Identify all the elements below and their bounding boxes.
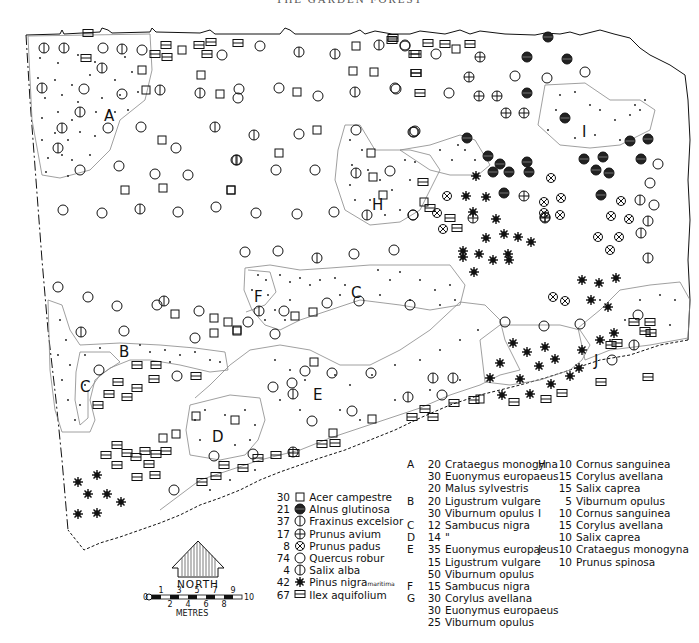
zone-label-b: B — [119, 343, 129, 361]
scale-tick-5: 5 — [194, 586, 199, 595]
zone-species: Corylus avellana — [576, 519, 663, 531]
zone-species: Viburnum opulus — [445, 616, 534, 628]
legend-row: 37 Fraxinus excelsior — [268, 515, 403, 527]
zone-count: 50 — [421, 568, 441, 580]
species-count: 30 — [268, 491, 290, 503]
zone-species: Crataegus monogyna — [576, 543, 689, 555]
zone-letter: H — [538, 458, 552, 470]
legend-row: 20Malus sylvestris — [407, 482, 559, 494]
legend-row: F15Sambucus nigra — [407, 580, 559, 592]
legend-row: 50Viburnum opulus — [407, 568, 559, 580]
legend-row: 10Prunus spinosa — [538, 556, 689, 568]
scale-tick-6: 6 — [203, 600, 208, 609]
legend-row: 30Euonymus europaeus — [407, 604, 559, 616]
zone-species: Euonymus europaeus — [445, 604, 559, 616]
zone-label-e: E — [313, 386, 322, 404]
zone-a-outline — [28, 34, 152, 178]
legend-row: 30Euonymus europaeus — [407, 470, 559, 482]
scale-tick-7: 7 — [212, 586, 217, 595]
zone-species: Ligustrum vulgare — [445, 495, 541, 507]
species-count: 17 — [268, 528, 290, 540]
scale-tick-2: 2 — [167, 600, 172, 609]
legend-row: 30Viburnum opulus — [407, 507, 559, 519]
zone-i-outline — [538, 83, 655, 148]
legend-row: 10Salix caprea — [538, 531, 689, 543]
zone-count: 15 — [552, 470, 572, 482]
legend-row: 15Ligustrum vulgare — [407, 556, 559, 568]
zone-species: Cornus sanguinea — [576, 458, 670, 470]
zone-legend-1: A20Crataegus monogyna 30Euonymus europae… — [407, 458, 559, 629]
legend-row: E35Euonymus europaeus — [407, 543, 559, 555]
zone-count: 14 — [421, 531, 441, 543]
zone-species: Sambucus nigra — [445, 519, 530, 531]
zone-species: Malus sylvestris — [445, 482, 528, 494]
legend-row: B20Ligustrum vulgare — [407, 495, 559, 507]
zone-species: Salix caprea — [576, 531, 640, 543]
scale-tick-9: 9 — [230, 586, 235, 595]
species-count: 21 — [268, 503, 290, 515]
species-name: Prunus padus — [309, 540, 380, 552]
zone-letter: G — [407, 592, 421, 604]
zone-letter: B — [407, 495, 421, 507]
zone-label-d: D — [212, 428, 224, 446]
species-count: 67 — [268, 589, 290, 601]
scale-tick-4: 4 — [185, 600, 190, 609]
zone-count: 15 — [421, 556, 441, 568]
zone-label-j: J — [593, 352, 598, 370]
zone-species: Cornus sanguinea — [576, 507, 670, 519]
species-suffix: maritima — [367, 580, 394, 587]
zone-count: 35 — [421, 543, 441, 555]
legend-row: H10Cornus sanguinea — [538, 458, 689, 470]
species-name: Alnus glutinosa — [309, 503, 389, 515]
scale-unit-label: METRES — [176, 609, 209, 618]
zone-letter: A — [407, 458, 421, 470]
legend-row: I10Cornus sanguinea — [538, 507, 689, 519]
legend-row: G30Corylus avellana — [407, 592, 559, 604]
legend-row: 8 Prunus padus — [268, 540, 403, 552]
zone-species: Viburnum opulus — [445, 568, 534, 580]
zone-legend-2: H10Cornus sanguinea 15Corylus avellana 1… — [538, 458, 689, 568]
zone-count: 10 — [552, 531, 572, 543]
zone-species: Viburnum opulus — [576, 495, 665, 507]
species-name: Acer campestre — [309, 491, 392, 503]
species-name: Salix alba — [309, 564, 360, 576]
zone-species: Sambucus nigra — [445, 580, 530, 592]
zone-species: Salix caprea — [576, 482, 640, 494]
zone-count: 30 — [421, 470, 441, 482]
zone-label-c-west: C — [80, 378, 90, 396]
scale-bar: 0 10 1 3 5 7 9 2 4 6 8 METRES — [143, 586, 254, 618]
zone-species: " — [445, 531, 450, 543]
legend-row: 74 Quercus robur — [268, 552, 403, 564]
legend-row: 67 Ilex aquifolium — [268, 589, 403, 601]
zone-label-c: C — [351, 284, 361, 302]
legend-row: 17 Prunus avium — [268, 528, 403, 540]
legend-row: 15Corylus avellana — [538, 519, 689, 531]
zone-letter: C — [407, 519, 421, 531]
zone-species: Corylus avellana — [445, 592, 532, 604]
legend-row: 25Viburnum opulus — [407, 616, 559, 628]
species-name: Ilex aquifolium — [309, 589, 386, 601]
zone-count: 25 — [421, 616, 441, 628]
zone-count: 15 — [421, 580, 441, 592]
species-count: 42 — [268, 576, 290, 588]
species-count: 37 — [268, 515, 290, 527]
zone-count: 10 — [552, 507, 572, 519]
legend-row: C12Sambucus nigra — [407, 519, 559, 531]
zone-species: Ligustrum vulgare — [445, 556, 541, 568]
scale-tick-1: 1 — [158, 586, 163, 595]
zone-letter: E — [407, 543, 421, 555]
zone-letter: D — [407, 531, 421, 543]
zone-label-i: I — [582, 123, 586, 141]
zone-species: Prunus spinosa — [576, 556, 655, 568]
species-count: 4 — [268, 564, 290, 576]
legend-row: 15Corylus avellana — [538, 470, 689, 482]
zone-label-f: F — [254, 288, 263, 306]
zone-label-h: H — [372, 196, 383, 214]
species-name: Quercus robur — [309, 552, 384, 564]
zone-letter: F — [407, 580, 421, 592]
zone-count: 12 — [421, 519, 441, 531]
legend-row: J10Crataegus monogyna — [538, 543, 689, 555]
legend-row: 21 Alnus glutinosa — [268, 503, 403, 515]
scale-tick-8: 8 — [221, 600, 226, 609]
zone-species: Corylus avellana — [576, 470, 663, 482]
